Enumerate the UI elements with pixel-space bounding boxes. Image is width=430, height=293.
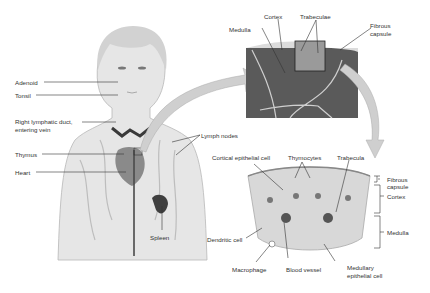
label-ln-fibrous-1: Fibrous [370, 22, 391, 29]
thymus-section [248, 167, 370, 250]
label-macrophage: Macrophage [232, 266, 266, 273]
label-dendritic-cell: Dendritic cell [207, 236, 242, 243]
diagram-illustration [0, 0, 430, 293]
label-th-cortex: Cortex [387, 193, 405, 200]
label-ln-trabeculae: Trabeculae [300, 13, 331, 20]
label-ln-medulla: Medulla [229, 26, 251, 33]
label-ln-fibrous-2: capsule [370, 30, 391, 37]
label-right-lymphatic-duct-2: entering vein [15, 126, 50, 133]
label-spleen: Spleen [150, 234, 169, 241]
label-tonsil: Tonsil [15, 92, 31, 99]
label-right-lymphatic-duct-1: Right lymphatic duct, [15, 118, 72, 125]
label-ln-cortex: Cortex [264, 13, 282, 20]
label-medullary-epithelial-1: Medullary [347, 264, 374, 271]
label-thymus: Thymus [15, 151, 37, 158]
label-cortical-epithelial-cell: Cortical epithelial cell [212, 154, 270, 161]
label-heart: Heart [15, 169, 30, 176]
lymph-node-section [246, 41, 358, 118]
label-trabecula: Trabecula [337, 154, 364, 161]
label-adenoid: Adenoid [15, 79, 38, 86]
label-blood-vessel: Blood vessel [286, 266, 321, 273]
label-th-fibrous-2: capsule [387, 183, 408, 190]
label-lymph-nodes: Lymph nodes [201, 132, 238, 139]
human-body-figure [58, 26, 207, 260]
label-thymocytes: Thymocytes [288, 154, 321, 161]
label-th-medulla: Medulla [387, 229, 409, 236]
label-th-fibrous-1: Fibrous [387, 176, 408, 183]
label-medullary-epithelial-2: epithelial cell [347, 272, 382, 279]
